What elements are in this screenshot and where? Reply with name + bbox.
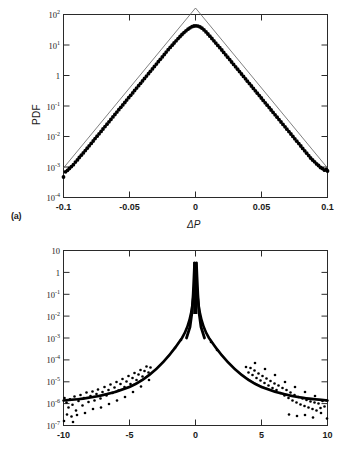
svg-text:10-1: 10-1 (47, 289, 61, 300)
panel-a-x-ticks (64, 15, 328, 198)
svg-text:10: 10 (52, 246, 61, 256)
svg-text:-0.05: -0.05 (119, 202, 140, 212)
panel-a-y-axis-label: PDF (31, 104, 42, 125)
panel-a-label: (a) (11, 211, 21, 221)
svg-text:0: 0 (193, 202, 198, 212)
panel-a-axes-frame (64, 15, 328, 198)
svg-text:10: 10 (322, 430, 332, 440)
panel-b: 10 1 10-1 10-2 10-3 10-4 10-5 10-6 10-7 … (0, 232, 348, 465)
panel-a-x-axis-label: ΔP (187, 219, 200, 230)
panel-a-x-ticklabels: -0.1 -0.05 0 0.05 0.1 (56, 202, 334, 212)
svg-text:0: 0 (193, 430, 198, 440)
svg-text:0.1: 0.1 (321, 202, 334, 212)
panel-a-fit-line (64, 8, 328, 168)
svg-text:10-4: 10-4 (47, 354, 61, 365)
svg-text:5: 5 (259, 430, 264, 440)
panel-b-y-ticklabels: 10 1 10-1 10-2 10-3 10-4 10-5 10-6 10-7 (47, 246, 61, 431)
panel-b-data-core (64, 262, 328, 401)
panel-a-plot: 102 101 1 10-1 10-2 10-3 10-4 -0.1 -0.05… (0, 0, 348, 235)
svg-text:-5: -5 (125, 430, 133, 440)
svg-text:10-6: 10-6 (47, 398, 61, 409)
svg-text:10-1: 10-1 (47, 101, 61, 112)
svg-text:1: 1 (56, 71, 60, 81)
panel-b-x-ticklabels: -10 -5 0 5 10 (57, 430, 333, 440)
svg-text:10-5: 10-5 (47, 376, 61, 387)
svg-text:1: 1 (56, 268, 60, 278)
svg-text:101: 101 (49, 40, 61, 51)
panel-a-data-markers (62, 24, 330, 179)
panel-b-tail-scatter (63, 339, 329, 424)
panel-a: 102 101 1 10-1 10-2 10-3 10-4 -0.1 -0.05… (0, 0, 348, 235)
svg-text:0.05: 0.05 (253, 202, 271, 212)
svg-text:10-3: 10-3 (47, 333, 61, 344)
svg-text:-10: -10 (57, 430, 70, 440)
figure-container: 102 101 1 10-1 10-2 10-3 10-4 -0.1 -0.05… (0, 0, 348, 465)
svg-text:10-2: 10-2 (47, 131, 61, 142)
svg-text:10-2: 10-2 (47, 311, 61, 322)
svg-text:102: 102 (49, 9, 61, 20)
panel-b-plot: 10 1 10-1 10-2 10-3 10-4 10-5 10-6 10-7 … (0, 232, 348, 465)
panel-a-y-ticklabels: 102 101 1 10-1 10-2 10-3 10-4 (47, 9, 61, 203)
svg-text:-0.1: -0.1 (56, 202, 72, 212)
panel-a-y-ticks (64, 15, 328, 198)
svg-text:10-3: 10-3 (47, 162, 61, 173)
